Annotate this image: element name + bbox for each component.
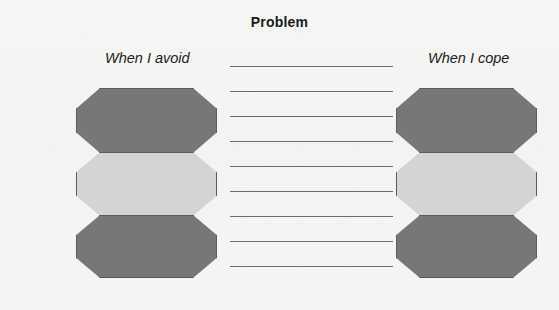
writing-line[interactable] (230, 116, 393, 117)
writing-line[interactable] (230, 241, 393, 242)
cope-octagon-stack (396, 88, 537, 278)
writing-line[interactable] (230, 166, 393, 167)
avoid-octagon-3[interactable] (76, 215, 217, 278)
writing-line[interactable] (230, 91, 393, 92)
page-title: Problem (0, 14, 559, 30)
avoid-octagon-2[interactable] (76, 152, 217, 216)
writing-line[interactable] (230, 191, 393, 192)
avoid-octagon-1[interactable] (76, 88, 217, 153)
caption-when-i-cope: When I cope (428, 50, 509, 66)
cope-octagon-3[interactable] (396, 215, 537, 278)
cope-octagon-2[interactable] (396, 152, 537, 216)
writing-line[interactable] (230, 66, 393, 67)
writing-line[interactable] (230, 141, 393, 142)
writing-line[interactable] (230, 216, 393, 217)
writing-line[interactable] (230, 266, 393, 267)
caption-when-i-avoid: When I avoid (105, 50, 190, 66)
avoid-octagon-stack (76, 88, 217, 278)
worksheet-canvas: Problem When I avoid When I cope (0, 0, 559, 310)
cope-octagon-1[interactable] (396, 88, 537, 153)
writing-lines-area (230, 62, 393, 270)
